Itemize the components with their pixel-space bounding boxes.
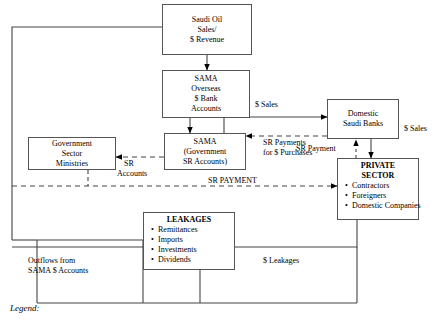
legend-label: Legend: [10, 303, 40, 313]
node-line: Sales/ [197, 25, 216, 35]
node-line: Saudi Banks [343, 119, 383, 129]
node-line: $ Bank [195, 94, 218, 104]
edge-oil-left-rail [12, 27, 162, 240]
node-domestic-saudi-banks[interactable]: Domestic Saudi Banks [327, 99, 399, 139]
list-item: Remittances [158, 225, 198, 235]
label-sr-accounts-line2: Accounts [117, 169, 147, 179]
node-line: SAMA [194, 74, 217, 84]
node-leakages[interactable]: LEAKAGES Remittances Imports Investments… [143, 212, 235, 270]
node-line: Domestic [348, 109, 379, 119]
label-sr-accounts-line1: SR [124, 159, 134, 169]
node-line: SR Accounts) [183, 157, 227, 167]
label-dollar-leakages: $ Leakages [263, 256, 299, 266]
node-line: $ Revenue [190, 35, 224, 45]
list-item: Investments [158, 245, 198, 255]
node-saudi-oil-sales[interactable]: Saudi Oil Sales/ $ Revenue [162, 4, 252, 55]
node-private-sector[interactable]: PRIVATE SECTOR Contractors Foreigners Do… [337, 158, 419, 220]
node-line: Sector [62, 149, 82, 159]
node-line: SAMA [193, 137, 216, 147]
label-outflows-line2: SAMA $ Accounts [28, 266, 88, 276]
private-sector-title: PRIVATE [338, 161, 418, 171]
leakages-title: LEAKAGES [144, 215, 234, 225]
label-dollar-sales-right: $ Sales [404, 124, 427, 134]
list-item: Dividends [158, 255, 198, 265]
label-sr-payment: SR Payment [296, 144, 336, 154]
node-government-sector-ministries[interactable]: Government Sector Ministries [28, 137, 116, 170]
node-line: Ministries [56, 159, 88, 169]
node-sama-government-sr-accounts[interactable]: SAMA (Government SR Accounts) [164, 133, 246, 170]
node-sama-overseas-accounts[interactable]: SAMA Overseas $ Bank Accounts [162, 70, 250, 118]
label-sr-payment-caps: SR PAYMENT [208, 176, 257, 186]
leakages-list: Remittances Imports Investments Dividend… [144, 225, 198, 265]
diagram-canvas: Saudi Oil Sales/ $ Revenue SAMA Overseas… [0, 0, 435, 326]
label-dollar-sales-top: $ Sales [255, 100, 278, 110]
list-item: Foreigners [352, 191, 421, 201]
node-line: Saudi Oil [192, 15, 222, 25]
node-line: Accounts [191, 104, 221, 114]
node-line: (Government [184, 147, 227, 157]
list-item: Imports [158, 235, 198, 245]
node-line: Government [52, 139, 92, 149]
list-item: Contractors [352, 181, 421, 191]
label-outflows-line1: Outflows from [28, 256, 75, 266]
node-line: Overseas [191, 84, 220, 94]
private-sector-list: Contractors Foreigners Domestic Companie… [338, 181, 421, 211]
private-sector-title-2: SECTOR [338, 171, 418, 181]
list-item: Domestic Companies [352, 201, 421, 211]
